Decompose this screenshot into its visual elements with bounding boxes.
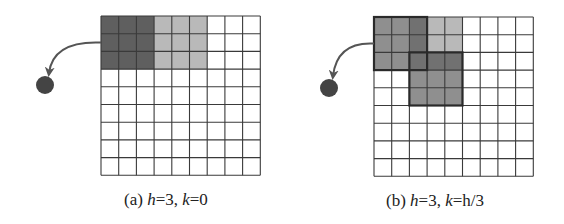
caption-b-prefix: (b) bbox=[386, 191, 410, 210]
caption-b: (b) h=3, k=h/3 bbox=[386, 191, 484, 211]
output-node-icon bbox=[320, 79, 338, 97]
caption-b-h: h bbox=[410, 191, 419, 210]
shaded-cells-overlap bbox=[409, 17, 427, 70]
caption-b-k-value: =h/3 bbox=[453, 191, 484, 210]
caption-b-k: k bbox=[445, 191, 453, 210]
caption-b-h-value: =3, bbox=[419, 191, 446, 210]
arrow-icon bbox=[333, 43, 374, 76]
